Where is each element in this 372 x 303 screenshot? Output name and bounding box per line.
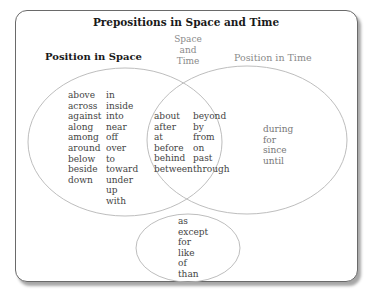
word: like bbox=[178, 248, 208, 259]
word: past bbox=[193, 153, 230, 164]
word: beyond bbox=[193, 111, 230, 122]
word: before bbox=[154, 143, 193, 154]
word: under bbox=[106, 175, 138, 186]
word: along bbox=[68, 122, 101, 133]
word: behind bbox=[154, 153, 193, 164]
space-only-col1: above across against along among around … bbox=[68, 90, 101, 185]
word: above bbox=[68, 90, 101, 101]
space-header: Position in Space bbox=[45, 51, 142, 62]
word: of bbox=[178, 258, 208, 269]
word: by bbox=[193, 122, 230, 133]
word: around bbox=[68, 143, 101, 154]
word: from bbox=[193, 132, 230, 143]
word: below bbox=[68, 154, 101, 165]
header-line: Time bbox=[166, 56, 210, 67]
space-and-time-header: Space and Time bbox=[166, 34, 210, 67]
neither-col: as except for like of than bbox=[178, 216, 208, 280]
word: at bbox=[154, 132, 193, 143]
overlap-col1: about after at before behind between bbox=[154, 111, 193, 175]
diagram-title: Prepositions in Space and Time bbox=[0, 16, 372, 28]
word: into bbox=[106, 111, 138, 122]
word: up bbox=[106, 185, 138, 196]
word: about bbox=[154, 111, 193, 122]
word: off bbox=[106, 132, 138, 143]
word: until bbox=[263, 156, 293, 167]
word: for bbox=[263, 135, 293, 146]
word: since bbox=[263, 145, 293, 156]
word: for bbox=[178, 237, 208, 248]
word: on bbox=[193, 143, 230, 154]
word: in bbox=[106, 90, 138, 101]
header-line: Space bbox=[166, 34, 210, 45]
word: with bbox=[106, 196, 138, 207]
word: among bbox=[68, 132, 101, 143]
word: than bbox=[178, 269, 208, 280]
word: toward bbox=[106, 164, 138, 175]
word: across bbox=[68, 101, 101, 112]
overlap-col2: beyond by from on past through bbox=[193, 111, 230, 175]
word: to bbox=[106, 154, 138, 165]
time-only-col: during for since until bbox=[263, 124, 293, 166]
word: between bbox=[154, 164, 193, 175]
word: as bbox=[178, 216, 208, 227]
space-only-col2: in inside into near off over to toward u… bbox=[106, 90, 138, 207]
word: through bbox=[193, 164, 230, 175]
word: during bbox=[263, 124, 293, 135]
word: against bbox=[68, 111, 101, 122]
word: near bbox=[106, 122, 138, 133]
word: down bbox=[68, 175, 101, 186]
word: inside bbox=[106, 101, 138, 112]
word: over bbox=[106, 143, 138, 154]
word: beside bbox=[68, 164, 101, 175]
word: after bbox=[154, 122, 193, 133]
time-header: Position in Time bbox=[234, 52, 312, 63]
word: except bbox=[178, 227, 208, 238]
header-line: and bbox=[166, 45, 210, 56]
